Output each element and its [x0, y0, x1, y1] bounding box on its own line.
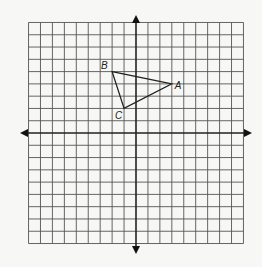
y-axis-up-arrow-icon: [132, 15, 140, 23]
x-axis-right-arrow-icon: [244, 129, 252, 137]
coordinate-plane: A B C: [0, 0, 262, 267]
axes: [20, 15, 252, 254]
triangle-abc: [112, 72, 172, 109]
vertex-label-c: C: [115, 110, 123, 121]
vertex-label-b: B: [101, 60, 108, 71]
x-axis-left-arrow-icon: [20, 129, 28, 137]
y-axis-down-arrow-icon: [132, 246, 140, 254]
vertex-label-a: A: [174, 80, 182, 91]
